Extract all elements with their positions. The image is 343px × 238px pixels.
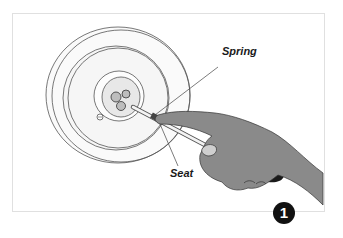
spring-label: Spring [222, 45, 257, 57]
step-number-badge: 1 [273, 202, 295, 224]
screw-icon [97, 114, 103, 120]
seat-label: Seat [170, 167, 193, 179]
faucet-repair-illustration [0, 0, 343, 238]
hand [155, 111, 323, 205]
